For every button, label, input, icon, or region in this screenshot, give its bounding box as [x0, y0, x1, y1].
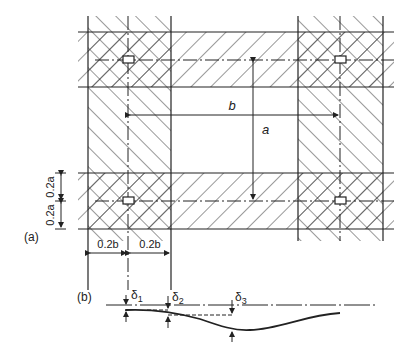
column-tl — [123, 56, 134, 63]
label-0.2b-left: 0.2b — [97, 238, 118, 250]
column-br — [335, 197, 346, 204]
svg-text:b: b — [228, 98, 235, 113]
dimension-0.2a — [55, 173, 66, 229]
label-a: (a) — [24, 230, 39, 244]
delta-3-label: δ3 — [235, 290, 247, 306]
delta-2-label: δ2 — [172, 290, 184, 306]
column-tr — [335, 56, 346, 63]
delta-1-label: δ1 — [131, 288, 143, 304]
deflection-profile: (b) δ1 δ2 δ3 — [77, 288, 376, 342]
slab-plan: b a 0.2a 0.2a 0.2b 0.2b (a) — [0, 0, 414, 290]
label-0.2b-right: 0.2b — [139, 238, 160, 250]
label-b: (b) — [77, 290, 92, 304]
figure-canvas: b a 0.2a 0.2a 0.2b 0.2b (a) (b) — [0, 0, 414, 361]
label-0.2a-top: 0.2a — [44, 175, 56, 197]
svg-text:a: a — [262, 122, 269, 137]
label-0.2a-bottom: 0.2a — [44, 203, 56, 225]
deflection-curve — [126, 310, 340, 330]
column-bl — [123, 197, 134, 204]
